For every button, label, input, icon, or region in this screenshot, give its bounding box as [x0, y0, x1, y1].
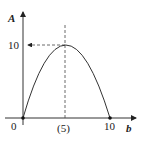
- origin-point: [21, 116, 25, 120]
- parabola-curve: [23, 45, 110, 118]
- y-tick-10: 10: [8, 39, 20, 51]
- chart: A 10 0 (5) 10 b: [0, 0, 145, 141]
- x-tick-10: 10: [104, 120, 116, 132]
- y-axis-label: A: [7, 12, 15, 24]
- x-tick-0: 0: [11, 120, 17, 132]
- x-tick-5: (5): [57, 122, 70, 135]
- x-axis-label: b: [126, 122, 132, 134]
